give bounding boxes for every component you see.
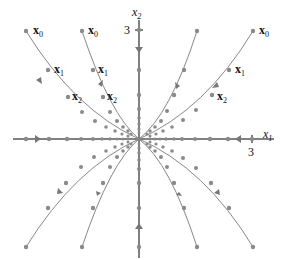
x-tick-label: 3 [248,146,254,158]
trajectory-lower-right-outer [139,139,253,247]
label-x1-right-outer: x1 [235,63,245,75]
label-x2-left-inner: x2 [107,90,117,102]
arrow-icon [96,191,101,196]
arrow-icon [235,135,241,143]
arrow-icon [35,135,41,143]
y-tick-label: 3 [124,24,130,36]
arrow-icon [57,188,63,194]
label-x2-left-outer: x2 [72,90,82,102]
arrow-icon [135,47,143,53]
y-axis-label: x2 [132,6,141,18]
label-x1-left-inner: x1 [98,63,108,75]
trajectory-lower-left-outer [26,139,139,247]
arrow-icon [98,80,103,87]
arrow-icon [135,223,143,229]
label-x0-right-outer: x0 [259,24,269,36]
phase-portrait: x2 3 x1 3 x0 x1 x2 x0 x1 x2 x0 x1 x2 [0,0,285,260]
trajectory-upper-left-outer [26,31,139,139]
label-x1-left-outer: x1 [54,63,64,75]
label-x0-left-outer: x0 [33,24,43,36]
arrow-icon [36,77,42,84]
label-x2-right-outer: x2 [217,90,227,102]
x-axis-label: x1 [263,128,272,140]
label-x0-left-inner: x0 [88,24,98,36]
arrow-icon [214,189,220,195]
trajectory-upper-right-outer [139,31,253,139]
phase-portrait-svg [0,0,285,260]
